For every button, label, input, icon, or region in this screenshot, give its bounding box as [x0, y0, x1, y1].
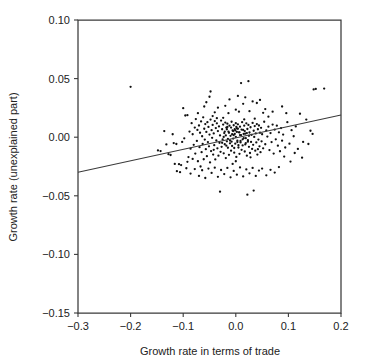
data-point [188, 130, 190, 132]
data-point [208, 133, 210, 135]
data-point [220, 119, 222, 121]
data-point [223, 173, 225, 175]
data-point [230, 141, 232, 143]
data-point [223, 152, 225, 154]
data-point [275, 138, 277, 140]
data-point [203, 105, 205, 107]
data-point [244, 96, 246, 98]
x-tick-label: 0.0 [228, 320, 243, 332]
data-point [190, 122, 192, 124]
data-point [254, 125, 256, 127]
data-point [173, 142, 175, 144]
data-point [250, 141, 252, 143]
data-point [205, 101, 207, 103]
data-point [246, 132, 248, 134]
data-point [202, 116, 204, 118]
data-point [214, 111, 216, 113]
data-point [257, 138, 259, 140]
data-point [259, 151, 261, 153]
data-point [176, 170, 178, 172]
data-point [243, 118, 245, 120]
data-point [274, 171, 276, 173]
data-point [209, 161, 211, 163]
y-tick-label: −0.10 [42, 248, 70, 260]
data-point [256, 153, 258, 155]
data-point [228, 154, 230, 156]
data-point [247, 124, 249, 126]
data-point [253, 136, 255, 138]
data-point [244, 150, 246, 152]
data-point [283, 155, 285, 157]
data-point [184, 114, 186, 116]
data-point [289, 160, 291, 162]
data-point [244, 143, 246, 145]
data-point [195, 118, 197, 120]
data-point [264, 108, 266, 110]
data-point [249, 156, 251, 158]
data-point [221, 128, 223, 130]
data-point [224, 121, 226, 123]
data-point [215, 139, 217, 141]
data-point [256, 123, 258, 125]
data-point [241, 138, 243, 140]
data-point [309, 130, 311, 132]
data-point [260, 140, 262, 142]
data-point [194, 152, 196, 154]
data-point [288, 143, 290, 145]
data-point [201, 135, 203, 137]
data-point [269, 169, 271, 171]
data-point [225, 134, 227, 136]
data-point [278, 131, 280, 133]
x-tick-label: −0.1 [172, 320, 194, 332]
data-point [185, 167, 187, 169]
data-point [225, 144, 227, 146]
data-point [261, 167, 263, 169]
data-point [284, 146, 286, 148]
data-point [262, 112, 264, 114]
data-point [233, 170, 235, 172]
data-point [263, 121, 265, 123]
data-point [209, 118, 211, 120]
data-point [258, 145, 260, 147]
data-point [226, 123, 228, 125]
data-point [209, 90, 211, 92]
data-point [261, 133, 263, 135]
data-point [187, 156, 189, 158]
data-point [285, 112, 287, 114]
data-point [214, 167, 216, 169]
data-point [252, 144, 254, 146]
data-point [192, 133, 194, 135]
data-point [210, 129, 212, 131]
data-point [294, 152, 296, 154]
data-point [245, 168, 247, 170]
data-point [236, 141, 238, 143]
data-point [206, 155, 208, 157]
data-point [244, 130, 246, 132]
data-point [253, 130, 255, 132]
data-point [219, 191, 221, 193]
data-point [233, 134, 235, 136]
data-point [204, 138, 206, 140]
y-tick-label: −0.15 [42, 307, 70, 319]
data-point [276, 125, 278, 127]
data-point [211, 137, 213, 139]
data-point [196, 129, 198, 131]
data-point [224, 105, 226, 107]
data-point [181, 141, 183, 143]
data-point [213, 132, 215, 134]
data-point [217, 176, 219, 178]
data-point [159, 150, 161, 152]
data-point [271, 123, 273, 125]
x-tick-labels: −0.3−0.2−0.10.00.10.2 [67, 320, 349, 332]
data-point [220, 169, 222, 171]
data-point [214, 158, 216, 160]
data-point [197, 112, 199, 114]
data-point [235, 126, 237, 128]
data-point [235, 109, 237, 111]
data-point [239, 126, 241, 128]
data-point [163, 130, 165, 132]
data-point [226, 167, 228, 169]
data-point [256, 102, 258, 104]
data-point [219, 134, 221, 136]
data-point [265, 174, 267, 176]
